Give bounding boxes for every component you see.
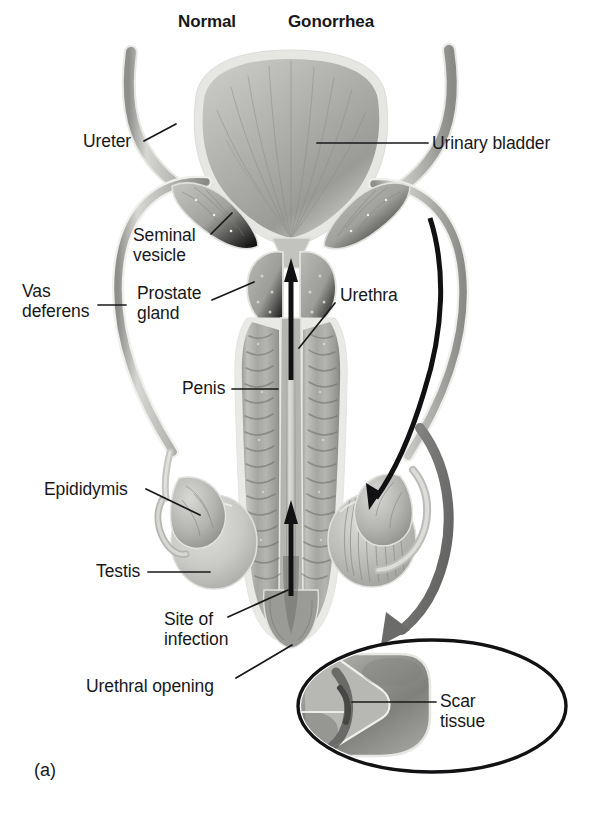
label-prostate-gland: Prostate gland [137, 284, 201, 323]
label-urethral-opening: Urethral opening [86, 677, 214, 697]
label-scar-tissue: Scar tissue [440, 692, 485, 731]
label-epididymis: Epididymis [44, 480, 128, 500]
label-urinary-bladder: Urinary bladder [432, 134, 550, 154]
heading-normal: Normal [178, 12, 236, 31]
epididymis-left [158, 452, 226, 554]
label-seminal-vesicle: Seminal vesicle [133, 226, 196, 265]
leader-ureter [144, 124, 176, 141]
label-ureter: Ureter [83, 132, 131, 152]
inset-urethra-cross-section [286, 654, 430, 756]
label-penis: Penis [182, 379, 225, 399]
inset-magnification [286, 640, 566, 772]
heading-gonorrhea: Gonorrhea [288, 12, 374, 31]
label-testis: Testis [96, 562, 140, 582]
label-vas-deferens: Vas deferens [22, 282, 89, 321]
label-site-of-infection: Site of infection [164, 610, 228, 649]
leader-urethral-opening [236, 645, 292, 678]
gonorrhea-male-reproductive-diagram: Normal Gonorrhea Ureter Urinary bladder … [0, 0, 601, 818]
panel-letter: (a) [34, 760, 56, 781]
label-urethra: Urethra [340, 286, 398, 306]
